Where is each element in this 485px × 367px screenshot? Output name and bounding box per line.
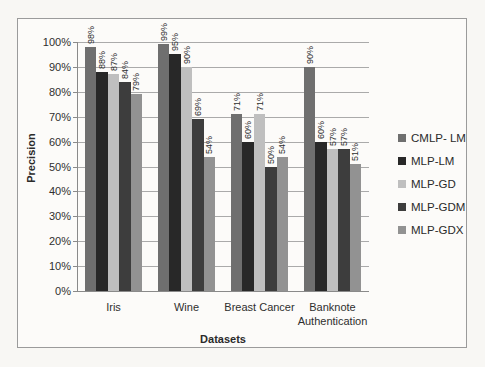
bar-value-label: 69% [193,98,203,116]
legend-item-CMLP-LM: CMLP- LM [398,126,466,149]
bar-MLP-LM-1 [169,54,180,291]
bar-MLP-GDX-2 [277,157,288,291]
bar-value-label: 51% [350,143,360,161]
bar-MLP-GDM-2 [265,167,276,292]
bar-value-label: 90% [182,46,192,64]
y-tick-label: 50% [31,162,71,173]
bar-MLP-GD-0 [108,74,119,291]
bar-MLP-GDM-3 [338,149,349,291]
y-tick-label: 80% [31,87,71,98]
legend-marker-icon [398,180,406,188]
category-label: Banknote Authentication [289,300,377,328]
bar-value-label: 98% [86,26,96,44]
legend-marker-icon [398,203,406,211]
bar-MLP-GDX-3 [350,164,361,291]
y-axis-line [77,42,78,292]
legend-label: MLP-GD [411,178,456,190]
y-tick-label: 100% [31,37,71,48]
bar-value-label: 87% [109,53,119,71]
legend-marker-icon [398,134,406,142]
bar-MLP-GD-3 [327,149,338,291]
y-tick-label: 60% [31,137,71,148]
bar-value-label: 84% [120,61,130,79]
legend-item-MLP-LM: MLP-LM [398,149,466,172]
y-axis-title: Precision [25,133,37,183]
bar-CMLP-LM-3 [304,67,315,291]
legend: CMLP- LMMLP-LMMLP-GDMLP-GDMMLP-GDX [398,126,466,241]
bar-value-label: 57% [328,128,338,146]
legend-label: MLP-GDM [411,201,465,213]
bar-value-label: 71% [255,93,265,111]
bar-CMLP-LM-0 [85,47,96,291]
bar-value-label: 71% [232,93,242,111]
legend-marker-icon [398,157,406,165]
bar-MLP-LM-3 [315,142,326,291]
legend-item-MLP-GDM: MLP-GDM [398,195,466,218]
bar-value-label: 50% [266,145,276,163]
y-tick-label: 90% [31,62,71,73]
y-tick-label: 20% [31,236,71,247]
legend-label: MLP-GDX [411,224,463,236]
y-tick-label: 0% [31,286,71,297]
bar-MLP-GDX-1 [204,157,215,291]
bar-MLP-GD-1 [181,67,192,291]
bar-MLP-GDX-0 [131,94,142,291]
bar-CMLP-LM-1 [158,44,169,291]
y-tick-label: 40% [31,186,71,197]
legend-item-MLP-GD: MLP-GD [398,172,466,195]
gridline [77,42,369,43]
legend-label: MLP-LM [411,155,454,167]
bar-value-label: 60% [243,121,253,139]
bar-value-label: 54% [277,136,287,154]
x-axis-title: Datasets [200,333,246,345]
bar-CMLP-LM-2 [231,114,242,291]
bar-value-label: 88% [97,51,107,69]
bar-MLP-GDM-0 [119,82,130,291]
y-tick-label: 70% [31,112,71,123]
x-axis-line [77,291,369,292]
bar-MLP-GD-2 [254,114,265,291]
bar-value-label: 54% [204,136,214,154]
bar-MLP-LM-2 [242,142,253,291]
legend-marker-icon [398,226,406,234]
y-tick-label: 10% [31,261,71,272]
y-tick-label: 30% [31,211,71,222]
bar-value-label: 90% [305,46,315,64]
legend-item-MLP-GDX: MLP-GDX [398,218,466,241]
bar-MLP-LM-0 [96,72,107,291]
bar-value-label: 60% [316,121,326,139]
legend-label: CMLP- LM [411,132,466,144]
bar-value-label: 99% [159,23,169,41]
bar-MLP-GDM-1 [192,119,203,291]
bar-value-label: 95% [170,33,180,51]
precision-bar-chart: 0%10%20%30%40%50%60%70%80%90%100%98%88%8… [0,0,485,367]
bar-value-label: 57% [339,128,349,146]
bar-value-label: 79% [131,73,141,91]
